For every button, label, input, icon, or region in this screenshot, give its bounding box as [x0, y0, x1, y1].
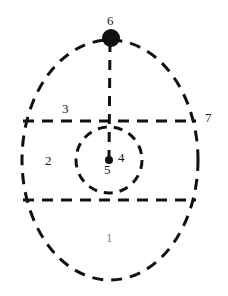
- diagram-svg: [0, 0, 228, 296]
- diagram-canvas: 1 2 3 4 5 6 7: [0, 0, 228, 296]
- region-label-6: 6: [107, 14, 114, 27]
- region-label-2: 2: [45, 154, 52, 167]
- region-label-7: 7: [205, 111, 212, 124]
- region-label-5: 5: [104, 163, 111, 176]
- region-label-4: 4: [118, 151, 125, 164]
- region-label-1: 1: [106, 231, 113, 244]
- vertical-axis-line: [109, 42, 110, 160]
- region-label-3: 3: [62, 102, 69, 115]
- top-vertex-dot: [102, 29, 120, 47]
